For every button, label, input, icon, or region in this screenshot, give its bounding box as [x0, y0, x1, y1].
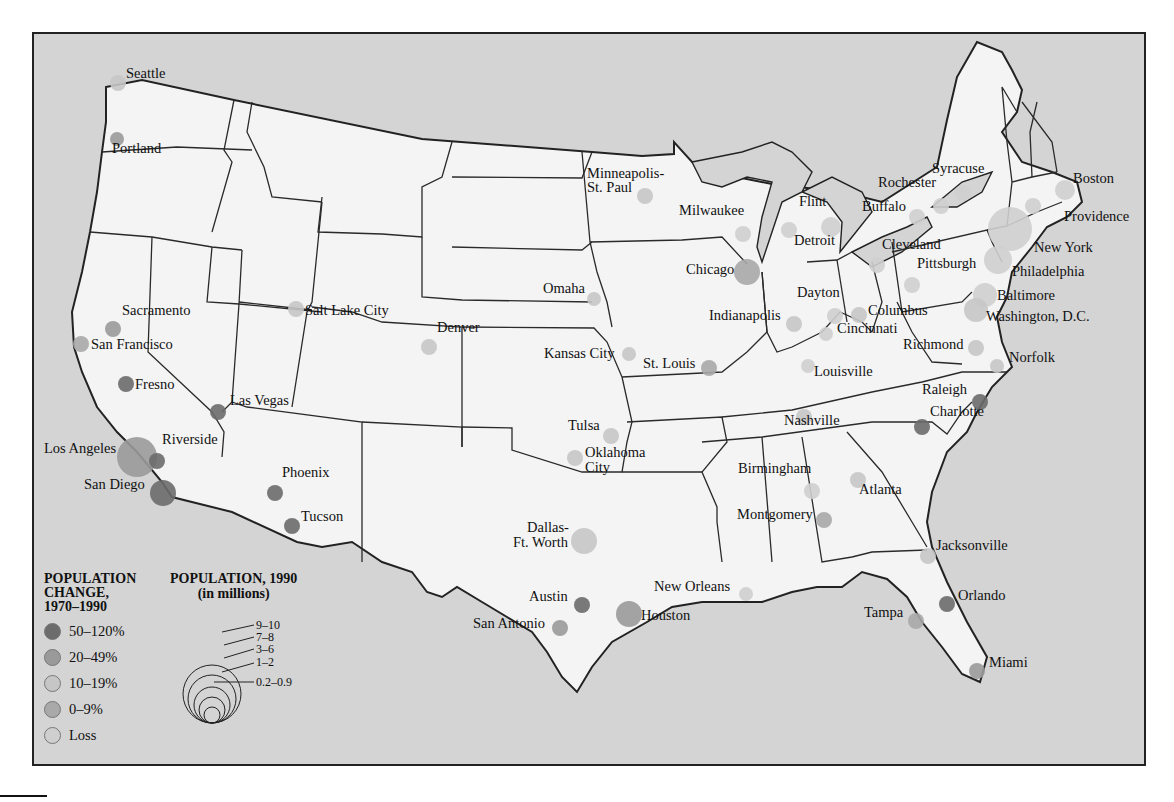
- city-bubble-miami: [969, 663, 985, 679]
- city-bubble-buffalo: [909, 209, 925, 225]
- city-label: Columbus: [868, 303, 928, 318]
- city-bubble-indianapolis: [786, 316, 802, 332]
- city-label: Seattle: [126, 66, 165, 81]
- city-bubble-cincinnati: [819, 327, 833, 341]
- city-label: Washington, D.C.: [986, 309, 1090, 324]
- city-label: Syracuse: [932, 161, 984, 176]
- city-bubble-austin: [574, 597, 590, 613]
- city-label: Riverside: [162, 432, 218, 447]
- city-bubble-pittsburgh: [904, 277, 920, 293]
- city-label: Portland: [112, 141, 161, 156]
- city-label: New York: [1034, 240, 1093, 255]
- city-bubble-tampa: [908, 613, 924, 629]
- city-bubble-syracuse: [955, 185, 971, 201]
- city-bubble-charlotte: [914, 419, 930, 435]
- city-label: Pittsburgh: [917, 256, 976, 271]
- city-label: Philadelphia: [1012, 264, 1085, 279]
- legend-change-item: 50–120%: [44, 618, 136, 644]
- city-label: Richmond: [903, 337, 963, 352]
- city-bubble-oklahoma-city: [567, 450, 583, 466]
- legend-change-label: 50–120%: [69, 623, 125, 640]
- city-label: Cleveland: [882, 237, 941, 252]
- city-bubble-omaha: [587, 292, 601, 306]
- city-label: Fresno: [135, 377, 174, 392]
- city-bubble-san-antonio: [552, 620, 568, 636]
- city-bubble-richmond: [968, 340, 984, 356]
- city-bubble-tulsa: [603, 428, 619, 444]
- city-label: Jacksonville: [936, 538, 1008, 553]
- city-label: San Francisco: [91, 337, 173, 352]
- city-bubble-fresno: [118, 376, 134, 392]
- city-label: Tucson: [301, 509, 343, 524]
- city-label: Detroit: [794, 233, 835, 248]
- city-label: Norfolk: [1009, 350, 1055, 365]
- city-label: Oklahoma: [585, 445, 645, 460]
- city-bubble-dallas-ft-worth: [571, 528, 597, 554]
- city-label: Atlanta: [859, 482, 902, 497]
- population-size-legend: POPULATION, 1990 (in millions): [170, 572, 297, 601]
- legend-change-item: 0–9%: [44, 696, 136, 722]
- city-bubble-louisville: [801, 359, 815, 373]
- legend-swatch-icon: [44, 727, 61, 744]
- city-bubble-houston: [616, 601, 642, 627]
- legend-change-title-1: POPULATION: [44, 572, 136, 586]
- legend-change-title-3: 1970–1990: [44, 600, 136, 614]
- city-label: Kansas City: [544, 346, 614, 361]
- legend-change-label: 20–49%: [69, 649, 117, 666]
- city-bubble-orlando: [939, 596, 955, 612]
- city-bubble-new-york: [988, 207, 1032, 251]
- city-label: Sacramento: [122, 303, 190, 318]
- city-bubble-rochester: [933, 198, 949, 214]
- city-label: San Antonio: [473, 616, 545, 631]
- city-bubble-san-diego: [150, 480, 176, 506]
- city-bubble-new-orleans: [739, 587, 753, 601]
- city-label: Ft. Worth: [513, 535, 568, 550]
- city-bubble-norfolk: [990, 359, 1004, 373]
- city-label: Raleigh: [922, 382, 967, 397]
- city-bubble-tucson: [284, 518, 300, 534]
- city-label: Indianapolis: [709, 308, 781, 323]
- city-bubble-sacramento: [105, 321, 121, 337]
- city-label: St. Paul: [587, 180, 632, 195]
- city-bubble-las-vegas: [210, 404, 226, 420]
- city-bubble-san-francisco: [73, 336, 89, 352]
- city-bubble-milwaukee: [735, 226, 751, 242]
- city-label: Baltimore: [997, 288, 1055, 303]
- city-label: Las Vegas: [230, 393, 289, 408]
- city-label: Houston: [641, 608, 690, 623]
- city-label: San Diego: [84, 477, 145, 492]
- city-label: Milwaukee: [679, 203, 744, 218]
- legend-change-label: Loss: [69, 727, 96, 744]
- city-bubble-kansas-city: [622, 347, 636, 361]
- city-label: Orlando: [958, 588, 1006, 603]
- legend-change-item: 10–19%: [44, 670, 136, 696]
- city-label: Charlotte: [930, 404, 984, 419]
- city-label: Chicago: [686, 262, 734, 277]
- city-bubble-boston: [1055, 180, 1075, 200]
- legend-swatch-icon: [44, 675, 61, 692]
- legend-change-item: 20–49%: [44, 644, 136, 670]
- city-label: Los Angeles: [44, 441, 116, 456]
- legend-size-title-1: POPULATION, 1990: [170, 572, 297, 586]
- city-label: Dallas-: [527, 520, 569, 535]
- city-bubble-providence: [1025, 198, 1041, 214]
- city-label: Omaha: [543, 281, 585, 296]
- legend-swatch-icon: [44, 701, 61, 718]
- city-label: Tampa: [864, 605, 903, 620]
- city-label: New Orleans: [654, 579, 730, 594]
- legend-change-item: Loss: [44, 722, 136, 748]
- city-bubble-riverside: [149, 453, 165, 469]
- city-label: Tulsa: [568, 418, 600, 433]
- legend-swatch-icon: [44, 649, 61, 666]
- city-label: Montgomery: [737, 507, 813, 522]
- us-map: [34, 34, 1146, 766]
- city-bubble-philadelphia: [984, 246, 1012, 274]
- map-frame: SeattlePortlandMinneapolis-St. PaulMilwa…: [32, 32, 1146, 766]
- legend-size-title-2: (in millions): [170, 587, 297, 601]
- city-label: Cincinnati: [837, 321, 897, 336]
- population-change-legend: POPULATION CHANGE, 1970–1990 50–120%20–4…: [44, 572, 136, 748]
- city-bubble-st-louis: [701, 360, 717, 376]
- city-label: Buffalo: [862, 199, 906, 214]
- city-bubble-cleveland: [869, 257, 885, 273]
- city-label: Flint: [799, 194, 826, 209]
